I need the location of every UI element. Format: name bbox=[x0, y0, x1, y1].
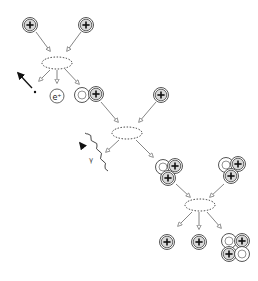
proton-1 bbox=[23, 18, 38, 33]
pp-chain-diagram: e⁺ γ bbox=[0, 0, 258, 281]
reaction-2-ellipse bbox=[112, 127, 142, 139]
neutrino-arrow bbox=[18, 73, 32, 88]
arrow-p1-to-reaction1 bbox=[36, 32, 50, 51]
arrow-reaction2-to-gamma bbox=[106, 140, 119, 152]
arrow-deuterium-to-reaction2 bbox=[101, 102, 118, 122]
proton-4 bbox=[160, 235, 175, 250]
gamma-ray-wave bbox=[85, 133, 108, 171]
deuterium-1 bbox=[75, 87, 104, 103]
helium4-1 bbox=[222, 234, 250, 262]
neutrino-dot bbox=[34, 91, 36, 93]
helium3-1 bbox=[156, 159, 183, 186]
arrow-reaction3-to-helium4 bbox=[207, 212, 221, 228]
arrow-reaction1-to-deuterium bbox=[65, 69, 79, 84]
arrow-helium3-2-to-reaction3 bbox=[210, 184, 224, 197]
arrow-p2-to-reaction1 bbox=[67, 32, 81, 51]
arrow-reaction1-to-neutrino bbox=[39, 70, 50, 81]
reaction-1-ellipse bbox=[42, 57, 72, 69]
gamma-label: γ bbox=[89, 156, 93, 164]
helium3-2 bbox=[219, 157, 246, 184]
reaction-3-ellipse bbox=[185, 199, 215, 211]
arrow-helium3-1-to-reaction3 bbox=[176, 184, 190, 197]
proton-3 bbox=[154, 88, 169, 103]
proton-2 bbox=[79, 18, 94, 33]
arrow-p3-to-reaction2 bbox=[139, 102, 156, 122]
positron: e⁺ bbox=[50, 89, 64, 103]
positron-label: e⁺ bbox=[52, 93, 61, 102]
arrow-reaction2-to-helium3 bbox=[136, 140, 153, 157]
arrow-reaction3-to-proton4 bbox=[178, 212, 192, 226]
gamma-arrow bbox=[80, 143, 84, 148]
proton-5 bbox=[192, 235, 207, 250]
